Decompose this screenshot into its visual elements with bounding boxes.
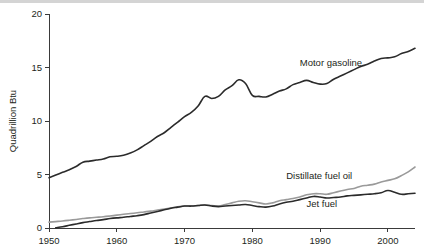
line-chart-plot: 05101520 195019601970198019902000 Motor … — [0, 0, 424, 252]
y-tick-label: 5 — [37, 169, 42, 180]
chart-figure: 05101520 195019601970198019902000 Motor … — [0, 0, 424, 252]
series-label-group: Motor gasolineDistillate fuel oilJet fue… — [286, 57, 362, 208]
series-label-distillate-fuel-oil: Distillate fuel oil — [286, 170, 352, 181]
series-line-jet-fuel — [56, 191, 415, 228]
y-tick-label: 20 — [31, 8, 42, 19]
y-tick-label: 15 — [31, 62, 42, 73]
x-tick-label: 1960 — [106, 235, 127, 246]
series-label-jet-fuel: Jet fuel — [307, 198, 338, 209]
y-tick-label: 10 — [31, 115, 42, 126]
x-tick-label: 1990 — [310, 235, 331, 246]
x-tick-label: 2000 — [377, 235, 398, 246]
y-tick-label: 0 — [37, 222, 42, 233]
series-label-motor-gasoline: Motor gasoline — [300, 57, 362, 68]
x-tick-label: 1980 — [242, 235, 263, 246]
y-tick-group: 05101520 — [31, 8, 49, 233]
x-tick-label: 1950 — [38, 235, 59, 246]
x-tick-label: 1970 — [174, 235, 195, 246]
axis-group — [49, 14, 415, 228]
series-group — [49, 48, 415, 228]
x-tick-group: 195019601970198019902000 — [38, 228, 398, 246]
y-axis-title: Quadrillion Btu — [7, 90, 18, 152]
